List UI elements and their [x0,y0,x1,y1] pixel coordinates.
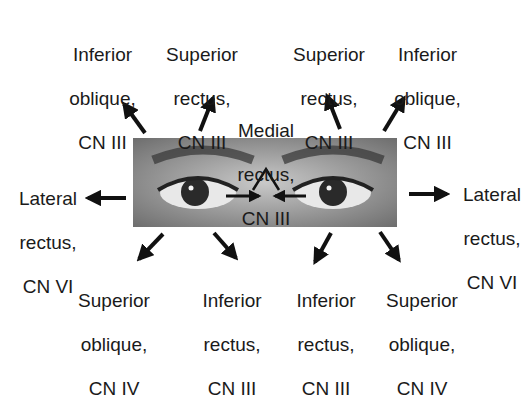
label-line: rectus, [222,164,310,186]
label-line: Inferior [375,44,480,66]
label-line: CN III [280,378,372,399]
label-line: Inferior [50,44,155,66]
label-line: rectus, [280,334,372,356]
label-line: oblique, [375,88,480,110]
label-line: CN III [186,378,278,399]
label-line: Lateral [2,188,94,210]
label-line: Superior [152,44,252,66]
label-line: oblique, [64,334,164,356]
label-line: CN IV [372,378,472,399]
label-line: CN IV [64,378,164,399]
label-line: Lateral [446,184,532,206]
label-line: oblique, [50,88,155,110]
label-line: CN III [50,132,155,154]
label-line: Superior [372,290,472,312]
label-line: rectus, [2,232,94,254]
label-line: Inferior [280,290,372,312]
arrow-down-left-2 [315,233,331,262]
label-line: Superior [64,290,164,312]
label-line: Medial [222,120,310,142]
label-line: Inferior [186,290,278,312]
label-line: oblique, [372,334,472,356]
label-line: CN III [375,132,480,154]
arrow-down-left-1 [139,234,163,259]
label-line: rectus, [186,334,278,356]
label-inferior-rectus-right: Inferior rectus, CN III [280,268,372,399]
label-line: Superior [279,44,379,66]
label-inferior-oblique-left: Inferior oblique, CN III [50,22,155,176]
label-superior-oblique-right: Superior oblique, CN IV [372,268,472,399]
label-line: rectus, [446,228,532,250]
label-superior-oblique-left: Superior oblique, CN IV [64,268,164,399]
arrow-down-right-2 [380,232,399,260]
label-medial-rectus: Medial rectus, CN III [222,98,310,252]
label-line: CN III [222,208,310,230]
label-inferior-rectus-left: Inferior rectus, CN III [186,268,278,399]
label-inferior-oblique-right: Inferior oblique, CN III [375,22,480,176]
